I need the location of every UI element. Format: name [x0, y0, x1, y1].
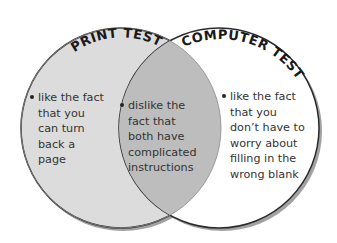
- print-item-line: page: [30, 152, 104, 168]
- print-item-line: like the fact: [38, 91, 104, 104]
- computer-item-line: filling in the: [222, 151, 305, 167]
- print-item-line: back a: [30, 137, 104, 153]
- computer-item-line: that you: [222, 105, 305, 121]
- print-test-item: like the fact that you can turn back a p…: [30, 90, 104, 168]
- bullet-icon: [120, 103, 124, 107]
- print-item-line: that you: [30, 106, 104, 122]
- computer-item-line: don’t have to: [222, 120, 305, 136]
- overlap-item-line: both have: [120, 129, 197, 145]
- computer-item-line: like the fact: [230, 90, 296, 103]
- overlap-item-line: instructions: [120, 160, 197, 176]
- bullet-icon: [222, 94, 226, 98]
- overlap-item: dislike the fact that both have complica…: [120, 98, 197, 176]
- computer-item-line: worry about: [222, 136, 305, 152]
- overlap-item-line: fact that: [120, 114, 197, 130]
- overlap-item-line: dislike the: [128, 99, 185, 112]
- bullet-icon: [30, 95, 34, 99]
- computer-test-item: like the fact that you don’t have to wor…: [222, 89, 305, 182]
- computer-item-line: wrong blank: [222, 167, 305, 183]
- print-item-line: can turn: [30, 121, 104, 137]
- overlap-item-line: complicated: [120, 145, 197, 161]
